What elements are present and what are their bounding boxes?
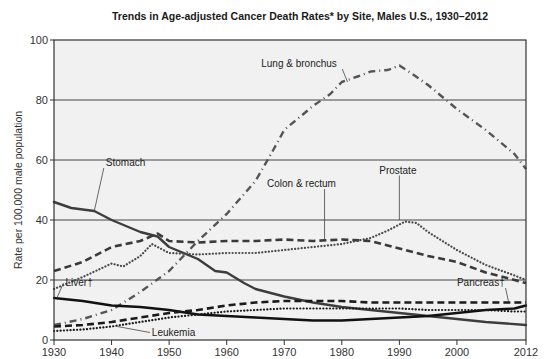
x-tick-label: 2012 (514, 346, 538, 358)
y-axis-ticks: 020406080100 (30, 34, 54, 346)
y-tick-label: 20 (36, 274, 48, 286)
y-tick-label: 100 (30, 34, 48, 46)
y-axis-label: Rate per 100,000 male population (12, 111, 24, 269)
annotation-label: Liver† (66, 277, 93, 288)
chart-title: Trends in Age-adjusted Cancer Death Rate… (112, 10, 488, 22)
chart-canvas: Trends in Age-adjusted Cancer Death Rate… (0, 0, 556, 359)
annotation-label: Lung & bronchus (261, 58, 337, 69)
x-tick-label: 1980 (330, 346, 354, 358)
annotation-label: Pancreas† (457, 277, 505, 288)
x-tick-label: 1960 (214, 346, 238, 358)
x-tick-label: 2000 (445, 346, 469, 358)
annotation-label: Prostate (379, 165, 417, 176)
x-tick-label: 1950 (157, 346, 181, 358)
y-tick-label: 0 (42, 334, 48, 346)
chart: Trends in Age-adjusted Cancer Death Rate… (0, 0, 556, 359)
x-tick-label: 1930 (42, 346, 66, 358)
annotation-label: Stomach (106, 157, 145, 168)
y-tick-label: 40 (36, 214, 48, 226)
annotation-label: Leukemia (152, 327, 196, 338)
x-tick-label: 1990 (387, 346, 411, 358)
x-tick-label: 1940 (99, 346, 123, 358)
x-tick-label: 1970 (272, 346, 296, 358)
plot-area (54, 40, 526, 340)
annotation-label: Colon & rectum (267, 178, 336, 189)
y-tick-label: 80 (36, 94, 48, 106)
x-axis-ticks: 193019401950196019701980199020002012 (42, 340, 538, 358)
y-tick-label: 60 (36, 154, 48, 166)
